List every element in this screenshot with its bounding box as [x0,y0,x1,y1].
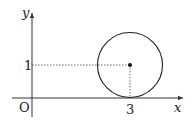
diagram-canvas: y x O 1 3 [0,0,193,123]
origin-label: O [19,100,30,115]
x-axis-label: x [174,100,182,115]
center-point [128,63,132,67]
y-tick-label: 1 [24,58,32,73]
y-axis-label: y [21,5,30,20]
x-tick-label: 3 [126,102,134,117]
